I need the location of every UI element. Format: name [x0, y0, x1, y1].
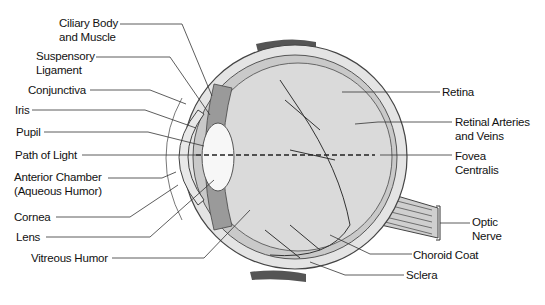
label-ciliary-body: Ciliary Body and Muscle — [59, 16, 118, 44]
label-line: and Muscle — [59, 30, 118, 44]
label-line: Fovea — [455, 149, 499, 163]
extraocular-muscle-bottom — [250, 270, 306, 282]
label-iris: Iris — [15, 103, 30, 117]
label-fovea-centralis: Fovea Centralis — [455, 149, 499, 177]
label-line: and Veins — [455, 129, 530, 143]
label-cornea: Cornea — [14, 210, 51, 224]
label-line: Ciliary Body — [59, 16, 118, 30]
label-line: Ligament — [36, 63, 95, 77]
label-optic-nerve: Optic Nerve — [472, 215, 502, 243]
label-retinal-arteries: Retinal Arteries and Veins — [455, 115, 530, 143]
label-line: Centralis — [455, 163, 499, 177]
label-vitreous-humor: Vitreous Humor — [31, 251, 108, 265]
label-lens: Lens — [16, 230, 40, 244]
label-anterior-chamber: Anterior Chamber (Aqueous Humor) — [14, 170, 102, 198]
label-pupil: Pupil — [16, 125, 41, 139]
label-line: Suspensory — [36, 49, 95, 63]
label-suspensory-ligament: Suspensory Ligament — [36, 49, 95, 77]
label-path-of-light: Path of Light — [15, 148, 77, 162]
label-line: Anterior Chamber — [14, 170, 102, 184]
lens-shape — [202, 123, 234, 191]
label-line: (Aqueous Humor) — [14, 184, 102, 198]
label-line: Nerve — [472, 229, 502, 243]
label-choroid-coat: Choroid Coat — [413, 248, 478, 262]
label-conjunctiva: Conjunctiva — [28, 83, 86, 97]
label-line: Optic — [472, 215, 502, 229]
label-retina: Retina — [442, 85, 474, 99]
label-sclera: Sclera — [406, 268, 437, 282]
label-line: Retinal Arteries — [455, 115, 530, 129]
